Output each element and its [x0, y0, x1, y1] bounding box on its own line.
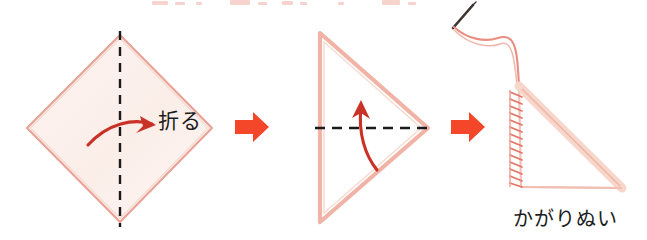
label-fold: 折る	[158, 108, 202, 134]
step-1-fold-square: 折る	[0, 0, 225, 240]
instruction-diagram: 折る	[0, 0, 647, 240]
step-3-illustration	[440, 0, 647, 240]
thread	[454, 27, 519, 85]
needle-icon	[453, 2, 476, 28]
step-2-illustration	[225, 0, 440, 240]
step-3-whipstitch	[440, 0, 647, 240]
label-whipstitch: かがりぬい	[513, 207, 618, 231]
fabric-bottom-edge	[521, 187, 622, 188]
step-2-fold-triangle	[225, 0, 440, 240]
